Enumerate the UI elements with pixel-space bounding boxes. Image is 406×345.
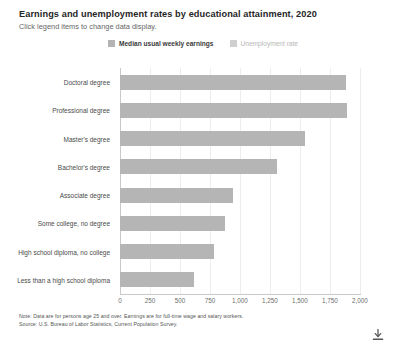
x-axis-tick-label: 2,000 <box>352 297 368 304</box>
bar[interactable] <box>120 272 194 287</box>
x-axis-tick-label: 1,000 <box>232 297 248 304</box>
y-axis-tick-label: Doctoral degree <box>10 79 110 86</box>
bar-row <box>120 96 360 124</box>
gridline <box>360 68 361 294</box>
x-axis-tick-label: 500 <box>175 297 186 304</box>
bar-row <box>120 68 360 96</box>
legend-item-label: Unemployment rate <box>241 40 299 47</box>
chart-subtitle: Click legend items to change data displa… <box>19 22 157 31</box>
x-axis-tick-label: 0 <box>118 297 122 304</box>
y-axis-tick-label: High school diploma, no college <box>10 248 110 255</box>
y-axis-tick-label: Some college, no degree <box>10 220 110 227</box>
x-axis-tick-label: 1,500 <box>292 297 308 304</box>
bar[interactable] <box>120 244 214 259</box>
x-axis-tick-label: 750 <box>205 297 216 304</box>
chart-legend: Median usual weekly earnings Unemploymen… <box>0 40 406 47</box>
bar[interactable] <box>120 159 277 174</box>
x-axis-tick-label: 1,250 <box>262 297 278 304</box>
bar[interactable] <box>120 131 305 146</box>
chart-source: Source: U.S. Bureau of Labor Statistics,… <box>19 321 178 327</box>
page-title: Earnings and unemployment rates by educa… <box>19 9 317 19</box>
y-axis-tick-label: Bachelor's degree <box>10 163 110 170</box>
y-axis-tick-label: Master's degree <box>10 135 110 142</box>
legend-swatch-icon <box>230 40 237 47</box>
x-axis-labels: 02505007501,0001,2501,5001,7502,000 <box>0 297 406 309</box>
bar-row <box>120 125 360 153</box>
bar-row <box>120 209 360 237</box>
legend-swatch-icon <box>108 40 115 47</box>
chart-note: Note: Data are for persons age 25 and ov… <box>19 313 243 319</box>
bar-row <box>120 266 360 294</box>
y-axis-tick-label: Associate degree <box>10 192 110 199</box>
bar-row <box>120 238 360 266</box>
chart-card: Earnings and unemployment rates by educa… <box>0 0 406 345</box>
x-axis-tick-label: 250 <box>145 297 156 304</box>
bar-row <box>120 181 360 209</box>
x-axis-tick-label: 1,750 <box>322 297 338 304</box>
y-axis-labels: Doctoral degreeProfessional degreeMaster… <box>10 68 116 294</box>
legend-item-label: Median usual weekly earnings <box>119 40 214 47</box>
legend-item-unemployment[interactable]: Unemployment rate <box>230 40 299 47</box>
bar[interactable] <box>120 103 347 118</box>
bar[interactable] <box>120 188 233 203</box>
bar[interactable] <box>120 216 225 231</box>
legend-item-earnings[interactable]: Median usual weekly earnings <box>108 40 214 47</box>
bar-row <box>120 153 360 181</box>
y-axis-tick-label: Less than a high school diploma <box>10 276 110 283</box>
download-icon[interactable] <box>371 328 385 342</box>
y-axis-tick-label: Professional degree <box>10 107 110 114</box>
plot-area <box>120 68 360 294</box>
bar[interactable] <box>120 75 346 90</box>
x-axis-line <box>120 294 361 295</box>
